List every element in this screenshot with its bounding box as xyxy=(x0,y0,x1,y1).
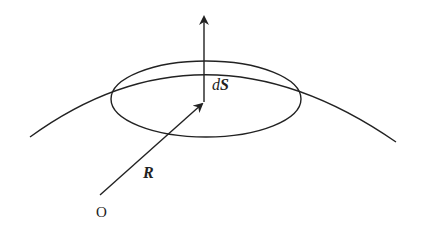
position-vector-arrow xyxy=(100,104,202,195)
origin-label: O xyxy=(96,204,107,220)
position-vector-label: R xyxy=(142,164,154,181)
diagram-svg: dS R O xyxy=(0,0,423,232)
diagram-canvas: dS R O xyxy=(0,0,423,232)
surface-element-ellipse xyxy=(111,61,301,137)
surface-element-label: dS xyxy=(212,76,229,93)
